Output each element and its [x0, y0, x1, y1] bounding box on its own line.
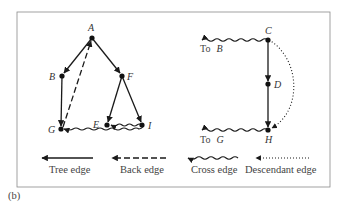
to-g-label: To G: [200, 129, 224, 146]
figure-frame: [17, 12, 330, 187]
legend-descendant-edge-label: Descendant edge: [245, 164, 317, 175]
cross-edge-i-g: [64, 125, 143, 130]
node-label-c: C: [265, 25, 272, 36]
right-graph: C D H To B To G: [200, 25, 294, 146]
left-graph: A B F G E I: [48, 22, 152, 135]
node-i: [139, 122, 144, 127]
node-label-g: G: [48, 124, 55, 135]
node-h: [265, 127, 270, 132]
cross-edge-i-e: [111, 124, 142, 126]
node-label-a: A: [87, 22, 95, 33]
legend-tree-edge-label: Tree edge: [49, 164, 91, 175]
node-label-h: H: [264, 134, 273, 145]
legend-cross-edge-icon: [188, 157, 238, 160]
node-f: [119, 73, 124, 78]
node-g: [58, 126, 63, 131]
legend: Tree edge Back edge Cross edge Descendan…: [42, 157, 317, 175]
node-label-e: E: [92, 119, 99, 130]
node-label-f: F: [126, 71, 134, 82]
dfs-edge-classification-diagram: A B F G E I C D H To B To G Tree edge Ba…: [0, 0, 343, 205]
node-b: [59, 73, 64, 78]
back-edge-g-a: [63, 41, 91, 127]
tree-edge-f-i: [122, 76, 141, 122]
node-label-d: D: [273, 79, 282, 90]
node-e: [104, 122, 109, 127]
node-c: [265, 37, 270, 42]
tree-edge-f-e: [108, 76, 122, 122]
tree-edge-b-g: [61, 76, 62, 126]
figure-caption: (b): [8, 190, 20, 201]
tree-edge-a-b: [64, 38, 92, 73]
node-d: [265, 81, 270, 86]
tree-edge-a-f: [92, 38, 120, 73]
legend-cross-edge-label: Cross edge: [191, 164, 238, 175]
node-a: [89, 35, 94, 40]
descendant-edge-c-h: [269, 40, 294, 128]
legend-back-edge-label: Back edge: [120, 164, 164, 175]
node-label-b: B: [49, 71, 55, 82]
to-b-label: To B: [200, 38, 223, 55]
node-label-i: I: [147, 120, 152, 131]
